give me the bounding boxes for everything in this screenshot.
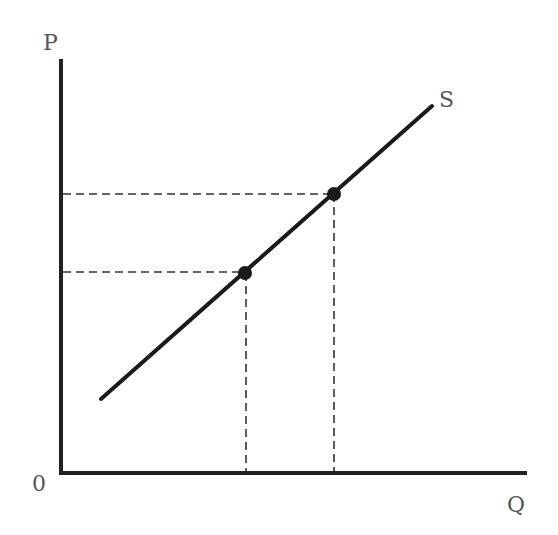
- supply-diagram: P Q 0 S: [0, 0, 558, 535]
- point-b: [327, 187, 341, 201]
- curve-label: S: [439, 87, 454, 112]
- x-axis-label: Q: [507, 492, 525, 517]
- origin-label: 0: [32, 471, 46, 496]
- dashed-guides: [63, 194, 334, 471]
- y-axis-label: P: [43, 30, 58, 55]
- point-a: [238, 266, 252, 280]
- supply-curve: [101, 106, 432, 399]
